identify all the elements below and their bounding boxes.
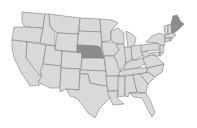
state-nm[interactable]	[60, 68, 80, 92]
state-ar[interactable]	[106, 76, 119, 91]
state-wy[interactable]	[55, 33, 78, 52]
state-ms[interactable]	[118, 76, 125, 97]
state-vt[interactable]	[164, 25, 168, 35]
state-sd[interactable]	[77, 31, 102, 47]
state-nd[interactable]	[79, 18, 101, 32]
us-states-map	[0, 0, 197, 128]
state-wa[interactable]	[22, 12, 45, 28]
state-ks[interactable]	[81, 58, 106, 71]
state-ct[interactable]	[165, 38, 170, 42]
state-co[interactable]	[61, 51, 82, 69]
